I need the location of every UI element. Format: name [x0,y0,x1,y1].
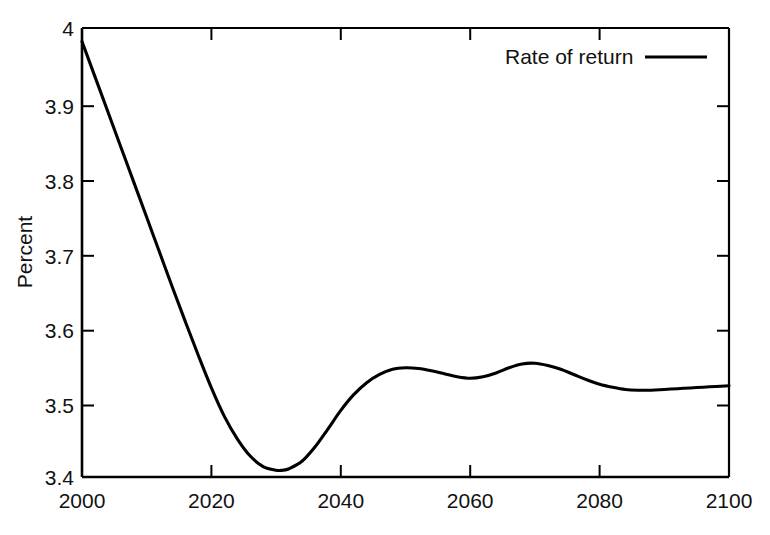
y-label-3-8: 3.8 [45,170,74,193]
y-label-3-9: 3.9 [45,95,74,118]
x-label-2040: 2040 [317,489,364,512]
rate-of-return-line-chart: 4 3.9 3.8 3.7 3.6 3.5 3.4 2000 2020 2040… [0,0,770,535]
x-label-2060: 2060 [447,489,494,512]
x-label-2100: 2100 [706,489,753,512]
y-label-3-4: 3.4 [45,466,75,489]
x-label-2000: 2000 [59,489,106,512]
y-label-3-6: 3.6 [45,319,74,342]
y-axis-title: Percent [13,216,36,289]
chart-background [0,0,770,535]
legend-label-rate-of-return: Rate of return [505,45,633,68]
y-label-3-7: 3.7 [45,245,74,268]
x-label-2080: 2080 [576,489,623,512]
y-label-3-5: 3.5 [45,394,74,417]
chart-page: 4 3.9 3.8 3.7 3.6 3.5 3.4 2000 2020 2040… [0,0,770,535]
x-label-2020: 2020 [188,489,235,512]
y-label-4: 4 [62,17,74,40]
